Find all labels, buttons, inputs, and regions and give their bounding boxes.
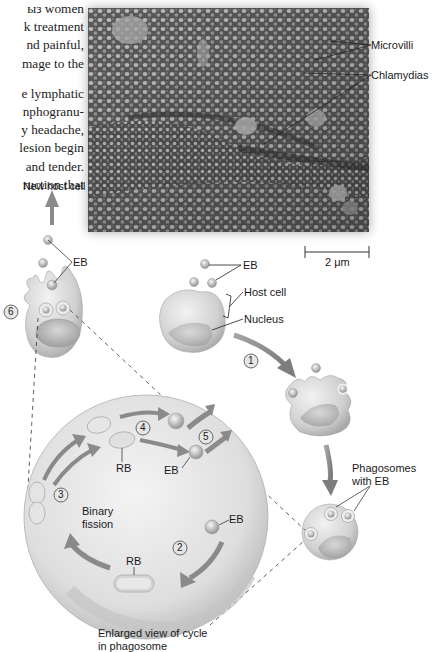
- label-eb-left: EB: [73, 256, 88, 268]
- label-eb-right: EB: [243, 259, 258, 271]
- label-eb-inner-2: EB: [229, 513, 244, 525]
- step-4-number: 4: [140, 422, 146, 433]
- caption-enlarged-2: in phagosome: [98, 640, 167, 652]
- step-1-number: 1: [248, 355, 254, 366]
- label-host-cell: Host cell: [244, 286, 286, 298]
- label-new-host-cell: New host cell: [23, 180, 85, 192]
- new-host-cell-arrow: [45, 190, 59, 225]
- label-eb-inner-1: EB: [164, 464, 179, 476]
- label-chlamydias: Chlamydias: [371, 69, 428, 81]
- scale-bar-label: 2 μm: [325, 256, 350, 268]
- step-2-number: 2: [177, 542, 183, 553]
- step-6-number: 6: [8, 306, 14, 317]
- step-3-number: 3: [58, 489, 64, 500]
- label-binary-2: fission: [82, 518, 113, 530]
- micrograph-leaders: [262, 41, 371, 145]
- label-rb-lower: RB: [126, 555, 141, 567]
- label-microvilli: Microvilli: [371, 39, 413, 51]
- cell-engulfing: [285, 364, 350, 437]
- arrow-step-1: [234, 335, 296, 378]
- arrow-down: [322, 445, 338, 496]
- label-phagosomes-2: with EB: [352, 475, 389, 487]
- caption-enlarged-1: Enlarged view of cycle: [98, 627, 207, 639]
- step-5-number: 5: [203, 431, 209, 442]
- cell-with-phagosomes: [302, 486, 370, 560]
- label-nucleus: Nucleus: [244, 313, 284, 325]
- label-phagosomes-1: Phagosomes: [352, 462, 416, 474]
- cell-step-6: [24, 236, 83, 358]
- label-rb-upper: RB: [116, 462, 131, 474]
- life-cycle-diagram: [0, 0, 432, 652]
- label-binary-1: Binary: [82, 505, 113, 517]
- host-cell-initial: [159, 260, 243, 353]
